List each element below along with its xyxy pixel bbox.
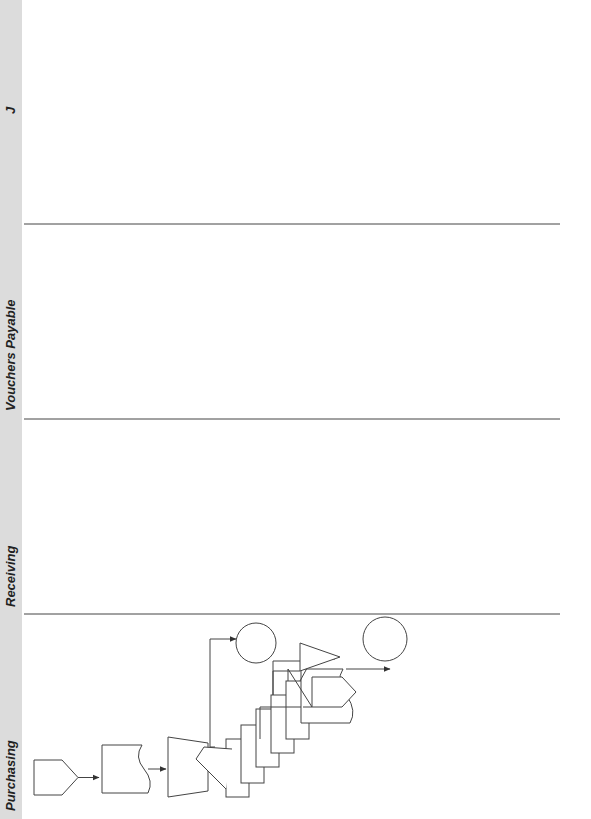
flowchart-canvas: Purchasing Receiving Vouchers Payable J bbox=[0, 0, 591, 819]
flowchart-detail bbox=[0, 0, 591, 819]
